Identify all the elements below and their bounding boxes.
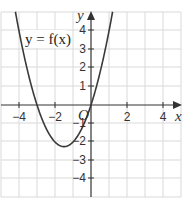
y-tick-label: 2 bbox=[79, 60, 86, 74]
function-graph: −4 −2 2 4 4 3 2 1 −1 −2 −3 −4 x y O y = … bbox=[0, 0, 183, 204]
x-tick-label: −2 bbox=[48, 110, 62, 124]
x-tick-label: 2 bbox=[124, 110, 131, 124]
x-tick-label: −4 bbox=[12, 110, 26, 124]
y-tick-label: 4 bbox=[79, 23, 86, 37]
origin-label: O bbox=[78, 107, 89, 123]
x-tick-label: 4 bbox=[160, 110, 167, 124]
y-tick-label: −4 bbox=[72, 171, 86, 185]
y-tick-label: −2 bbox=[72, 134, 86, 148]
x-axis-label: x bbox=[174, 108, 182, 124]
y-tick-label: 1 bbox=[79, 79, 86, 93]
y-tick-label: −3 bbox=[72, 153, 86, 167]
function-label: y = f(x) bbox=[25, 31, 71, 48]
y-axis-label: y bbox=[75, 7, 84, 23]
y-tick-label: 3 bbox=[79, 42, 86, 56]
